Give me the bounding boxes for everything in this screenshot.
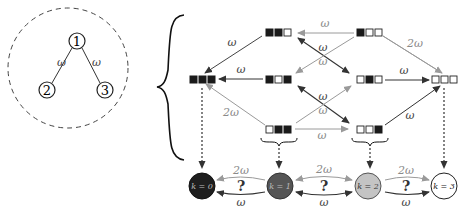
k1-k2-bottom-label: ω xyxy=(320,196,329,209)
k-state-2: k = 2 xyxy=(355,173,381,199)
k-transitions: 2ω ? ω 2ω ? ω 2ω ? ω xyxy=(217,163,429,209)
state-s000 xyxy=(432,76,457,83)
label-s100-s101: ω xyxy=(319,55,328,68)
label-s011-s010: ω xyxy=(319,104,328,117)
label-s101-s001: ω xyxy=(319,90,328,103)
underbrace-right xyxy=(352,138,388,146)
state-diagram: 1 2 3 ω ω ω 2ω ω ω 2ω ω ω ω xyxy=(0,0,473,214)
label-s011-s001: ω xyxy=(318,129,327,142)
k1-k2-question: ? xyxy=(320,178,328,194)
k1-k0-bottom-label: ω xyxy=(237,196,246,209)
curly-brace xyxy=(157,15,184,160)
tree-node-1-label: 1 xyxy=(73,34,81,49)
label-s010-s000: ω xyxy=(400,64,409,77)
k-state-3: k = 3 xyxy=(431,173,457,199)
state-s111 xyxy=(190,76,215,83)
state-s110 xyxy=(266,29,291,36)
k-state-1-label: k = 1 xyxy=(269,182,291,191)
k-state-0-label: k = 0 xyxy=(191,182,213,191)
k2-k3-question: ? xyxy=(402,178,410,194)
state-s010 xyxy=(357,76,382,83)
k1-k2-top-label: 2ω xyxy=(315,163,332,176)
state-s100 xyxy=(357,29,382,36)
k-state-0: k = 0 xyxy=(189,173,215,199)
label-s101-s111: ω xyxy=(237,63,246,76)
k-state-2-label: k = 2 xyxy=(357,182,379,191)
label-s011-s111: 2ω xyxy=(222,106,239,119)
label-s100-s110: ω xyxy=(321,17,330,30)
k2-k3-top-label: 2ω xyxy=(397,164,414,177)
tree-graph: 1 2 3 ω ω xyxy=(8,8,128,128)
tree-node-3-label: 3 xyxy=(101,83,109,98)
edge-1-3-label: ω xyxy=(92,56,101,69)
k-state-3-label: k = 3 xyxy=(433,182,455,191)
label-s001-s000: ω xyxy=(406,109,415,122)
transitions: ω 2ω ω ω 2ω ω ω ω ω ω ω ω xyxy=(205,17,442,142)
tree-node-2-label: 2 xyxy=(43,83,51,98)
k-state-1: k = 1 xyxy=(267,173,293,199)
k2-k3-bottom-label: ω xyxy=(402,196,411,209)
k1-k0-top-label: 2ω xyxy=(232,164,249,177)
underbrace-left xyxy=(261,138,297,146)
state-s101 xyxy=(266,76,291,83)
label-s110-s010: ω xyxy=(319,41,328,54)
label-s100-s000: 2ω xyxy=(406,37,423,50)
k1-k0-question: ? xyxy=(237,178,245,194)
state-s001 xyxy=(357,126,382,133)
state-s011 xyxy=(266,126,291,133)
label-s110-s111: ω xyxy=(228,36,237,49)
dashed-circle xyxy=(8,8,128,128)
edge-1-2-label: ω xyxy=(57,56,66,69)
